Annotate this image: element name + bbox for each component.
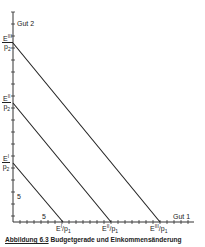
y-intercept-III-label: EIII p2 [2,35,13,50]
budget-line-II [13,103,111,222]
y-axis-label: Gut 2 [17,20,34,27]
y-intercept-II-label: EII p2 [2,95,11,110]
x-axis-label: Gut 1 [173,213,190,220]
figure-caption: Abbildung 6.3 Budgetgerade und Einkommen… [5,236,182,243]
budget-line-diagram [0,0,205,247]
x-intercept-I-label: EI/p1 [56,225,71,232]
y-tick-label-5: 5 [17,193,21,200]
x-intercept-II-label: EII/p1 [102,225,118,232]
x-intercept-III-label: EIII/p1 [150,225,167,232]
caption-figure-number: Abbildung 6.3 [5,236,49,243]
y-intercept-I-label: EI p2 [2,155,10,170]
x-tick-label-5: 5 [42,213,46,220]
caption-title: Budgetgerade und Einkommensänderung [50,236,181,243]
budget-line-III [13,43,160,222]
